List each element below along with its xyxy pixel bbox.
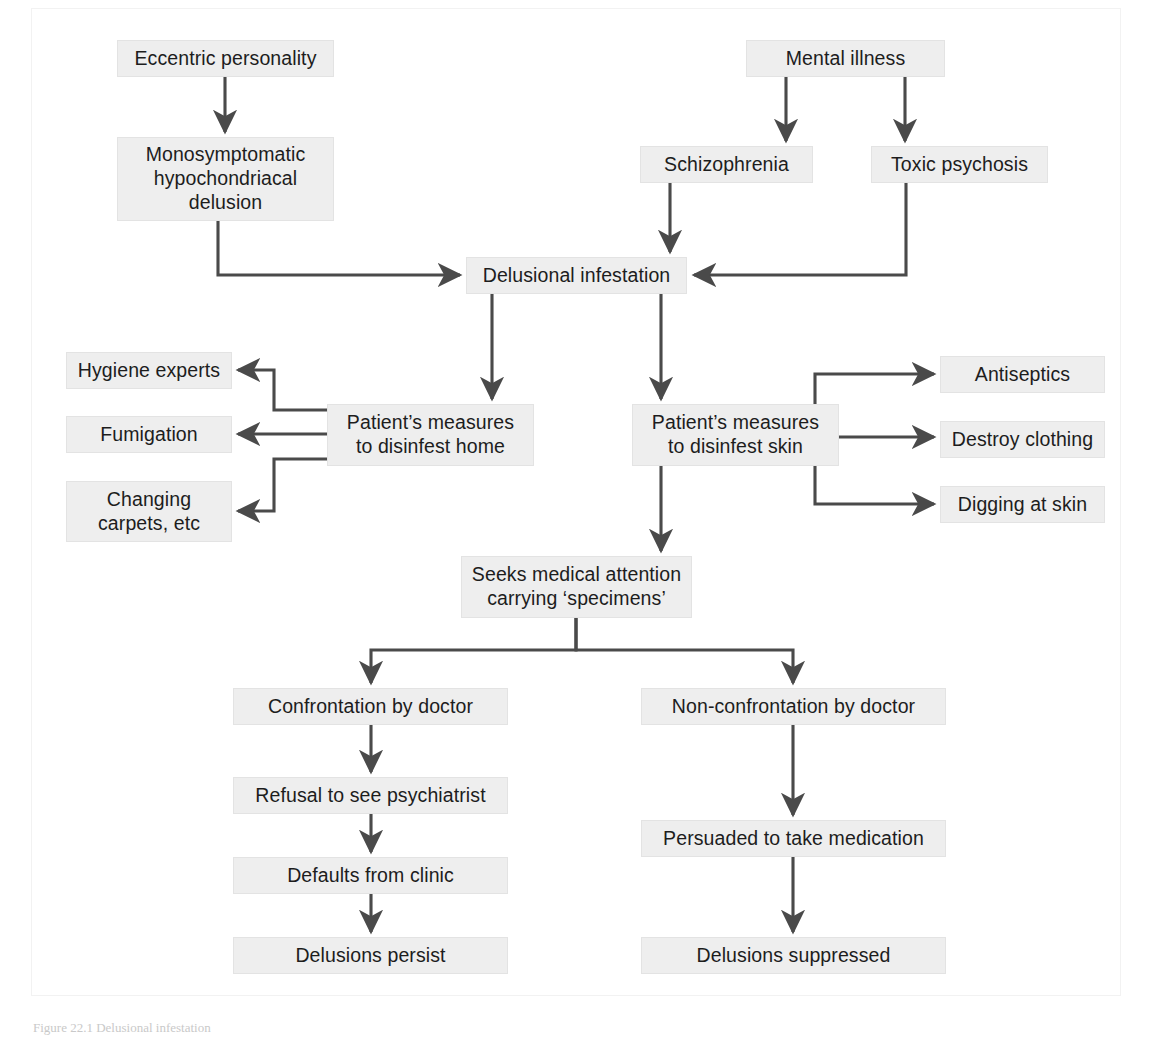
- node-persist: Delusions persist: [233, 937, 508, 974]
- node-antiseptics: Antiseptics: [940, 356, 1105, 393]
- node-eccentric: Eccentric personality: [117, 40, 334, 77]
- node-skin: Patient’s measures to disinfest skin: [632, 404, 839, 466]
- figure-root: Eccentric personalityMental illnessMonos…: [0, 0, 1157, 1045]
- node-nonconfrontation: Non-confrontation by doctor: [641, 688, 946, 725]
- node-suppressed: Delusions suppressed: [641, 937, 946, 974]
- node-mental: Mental illness: [746, 40, 945, 77]
- node-delusional: Delusional infestation: [466, 257, 687, 294]
- node-digging: Digging at skin: [940, 486, 1105, 523]
- node-fumigation: Fumigation: [66, 416, 232, 453]
- node-confrontation: Confrontation by doctor: [233, 688, 508, 725]
- node-mono: Monosymptomatic hypochondriacal delusion: [117, 137, 334, 221]
- node-persuaded: Persuaded to take medication: [641, 820, 946, 857]
- node-home: Patient’s measures to disinfest home: [327, 404, 534, 466]
- node-refusal: Refusal to see psychiatrist: [233, 777, 508, 814]
- node-defaults: Defaults from clinic: [233, 857, 508, 894]
- node-schizo: Schizophrenia: [640, 146, 813, 183]
- node-seeks: Seeks medical attention carrying ‘specim…: [461, 556, 692, 618]
- node-hygiene: Hygiene experts: [66, 352, 232, 389]
- node-clothing: Destroy clothing: [940, 421, 1105, 458]
- figure-caption: Figure 22.1 Delusional infestation: [33, 1020, 211, 1036]
- node-toxic: Toxic psychosis: [871, 146, 1048, 183]
- node-carpets: Changing carpets, etc: [66, 481, 232, 542]
